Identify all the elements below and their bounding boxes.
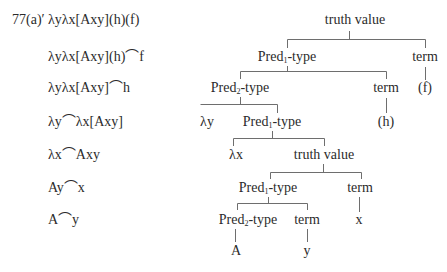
pred-label: Pred <box>239 180 265 195</box>
leaf-f: (f) <box>418 80 432 96</box>
pred-label: Pred <box>243 114 269 129</box>
node-lambda-x: λx <box>229 147 243 163</box>
leaf-A: A <box>231 243 241 259</box>
node-truth-value-inner: truth value <box>294 147 354 163</box>
node-pred1-type-level3: Pred1-type <box>243 114 301 130</box>
leaf-x: x <box>356 212 363 228</box>
node-pred1-type-level1: Pred1-type <box>258 49 316 65</box>
pred-suffix: -type <box>268 180 297 195</box>
node-truth-value-root: truth value <box>325 12 385 28</box>
leaf-h: (h) <box>378 114 394 130</box>
node-pred2-type-level6: Pred2-type <box>219 212 277 228</box>
pred-label: Pred <box>219 212 245 227</box>
pred-label: Pred <box>211 80 237 95</box>
node-term-h: term <box>373 80 399 96</box>
tree-branches <box>0 0 447 272</box>
node-term-f: term <box>412 49 438 65</box>
node-pred2-type-level2: Pred2-type <box>211 80 269 96</box>
node-lambda-y: λy <box>200 114 214 130</box>
pred-suffix: -type <box>248 212 277 227</box>
pred-suffix: -type <box>240 80 269 95</box>
pred-suffix: -type <box>272 114 301 129</box>
node-pred1-type-level5: Pred1-type <box>239 180 297 196</box>
leaf-y: y <box>304 243 311 259</box>
pred-label: Pred <box>258 49 284 64</box>
node-term-y: term <box>294 212 320 228</box>
node-term-x: term <box>347 180 373 196</box>
pred-suffix: -type <box>287 49 316 64</box>
